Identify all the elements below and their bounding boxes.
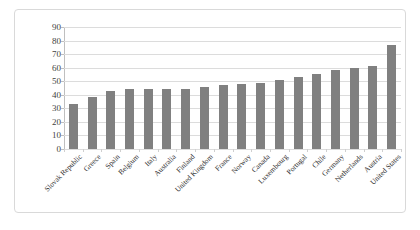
bar[interactable] [256, 83, 265, 149]
x-tick-mark [120, 149, 121, 152]
bar[interactable] [106, 91, 115, 149]
x-tick-mark [307, 149, 308, 152]
x-axis-label: Portugal [285, 153, 308, 176]
bar[interactable] [237, 84, 246, 149]
y-tick-label-70: 70 [15, 50, 61, 59]
y-tick-label-30: 30 [15, 104, 61, 113]
bar[interactable] [88, 97, 97, 149]
x-tick-mark [382, 149, 383, 152]
x-tick-mark [83, 149, 84, 152]
bar[interactable] [144, 89, 153, 149]
y-tick-label-40: 40 [15, 90, 61, 99]
gridline-70 [64, 54, 401, 55]
x-tick-mark [270, 149, 271, 152]
y-tick-label-20: 20 [15, 117, 61, 126]
y-tick-label-90: 90 [15, 23, 61, 32]
gridline-90 [64, 27, 401, 28]
y-axis-tick-labels: 9080706050403020100 [15, 27, 61, 149]
x-tick-mark [195, 149, 196, 152]
x-tick-mark [101, 149, 102, 152]
bar[interactable] [331, 70, 340, 149]
x-axis-category-labels: Slovak RepublicGreeceSpainBelgiumItalyAu… [64, 153, 401, 213]
bar[interactable] [275, 80, 284, 149]
x-tick-mark [401, 149, 402, 152]
x-axis-label: Greece [82, 153, 102, 173]
x-tick-mark [326, 149, 327, 152]
x-tick-mark [139, 149, 140, 152]
bar[interactable] [162, 89, 171, 149]
x-axis-label: Norway [230, 153, 252, 175]
x-tick-mark [364, 149, 365, 152]
bar[interactable] [294, 77, 303, 149]
bar[interactable] [181, 89, 190, 149]
x-tick-mark [176, 149, 177, 152]
x-axis-label: Slovak Republic [44, 153, 84, 193]
x-tick-mark [251, 149, 252, 152]
x-tick-mark [64, 149, 65, 152]
gridline-80 [64, 41, 401, 42]
bar[interactable] [125, 89, 134, 149]
bar[interactable] [219, 85, 228, 149]
y-tick-label-50: 50 [15, 77, 61, 86]
y-tick-label-10: 10 [15, 131, 61, 140]
x-tick-mark [345, 149, 346, 152]
bar[interactable] [387, 45, 396, 149]
bar[interactable] [368, 66, 377, 149]
y-tick-label-80: 80 [15, 36, 61, 45]
bar[interactable] [312, 74, 321, 149]
x-tick-mark [158, 149, 159, 152]
bar[interactable] [200, 87, 209, 149]
plot-area [64, 27, 401, 149]
y-tick-label-60: 60 [15, 63, 61, 72]
y-tick-label-0: 0 [15, 145, 61, 154]
bar[interactable] [350, 68, 359, 149]
x-tick-mark [233, 149, 234, 152]
chart-frame: 9080706050403020100 Slovak RepublicGreec… [14, 9, 406, 213]
bar[interactable] [69, 104, 78, 149]
x-tick-mark [289, 149, 290, 152]
x-tick-mark [214, 149, 215, 152]
